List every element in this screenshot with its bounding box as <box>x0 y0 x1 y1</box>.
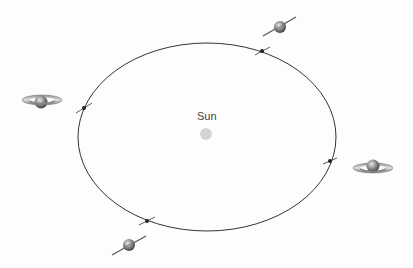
saturn-icon-bottom <box>112 236 146 255</box>
sun-label: Sun <box>197 110 217 122</box>
saturn-icon-top <box>263 17 296 36</box>
saturn-icon-right <box>353 160 393 174</box>
orbit-diagram <box>0 0 413 268</box>
saturn-icon-left <box>22 95 62 109</box>
orbit-marker-left <box>76 103 92 113</box>
sun-icon <box>200 128 212 140</box>
orbit-marker-right <box>323 158 337 164</box>
